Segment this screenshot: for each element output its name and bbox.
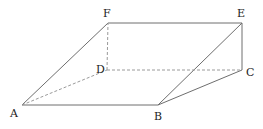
vertex-label-E: E [237,8,245,19]
edge-AD-hidden [22,70,107,105]
diagram-canvas: F E D C A B [0,0,263,129]
vertex-label-A: A [10,108,18,119]
edge-BE [158,23,242,105]
edge-BC [158,70,242,105]
edge-DF-hidden [107,23,108,70]
vertex-label-B: B [154,111,162,122]
vertex-label-D: D [96,64,105,75]
vertex-label-F: F [103,8,111,19]
vertex-label-C: C [246,67,254,78]
wedge-figure [0,0,263,129]
